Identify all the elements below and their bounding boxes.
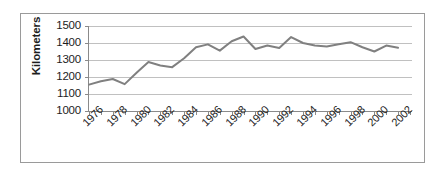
y-tick-label: 1200 (43, 70, 81, 82)
y-tick-label: 1400 (43, 36, 81, 48)
line-chart-figure: Kilometers 150014001300120011001000 1976… (0, 0, 443, 174)
y-tick-label: 1100 (43, 87, 81, 99)
y-tick-label: 1000 (43, 104, 81, 116)
y-tick-label: 1500 (43, 19, 81, 31)
y-axis-title: Kilometers (30, 6, 42, 86)
y-tick-label: 1300 (43, 53, 81, 65)
